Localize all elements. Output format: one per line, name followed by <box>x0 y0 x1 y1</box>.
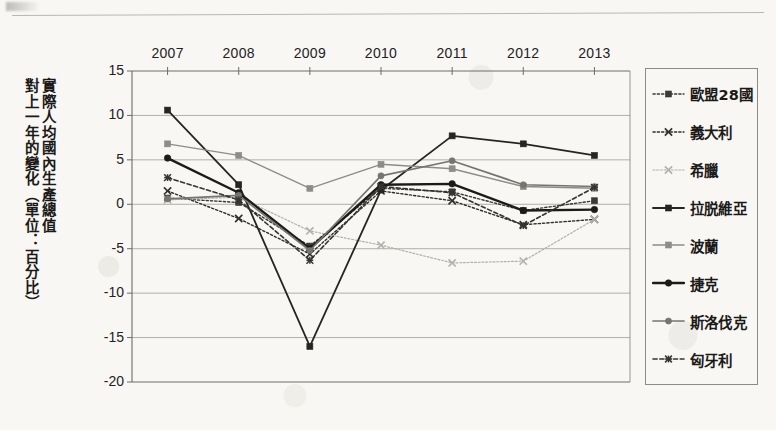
scanned-page: 實際人均國內生產總值 對上一年的變化（單位：百分比） 2007200820092… <box>0 0 776 430</box>
legend-item-1[interactable]: 義大利 <box>646 117 757 147</box>
data-point <box>449 181 456 188</box>
data-point <box>235 196 242 203</box>
y-axis-ticks <box>127 71 132 382</box>
series-6 <box>164 158 597 254</box>
data-point <box>378 183 385 190</box>
data-point <box>307 247 313 253</box>
legend-key-square-icon <box>652 87 685 101</box>
chart-legend: 歐盟28國義大利希臘拉脱維亞波蘭捷克斯洛伐克匈牙利 <box>645 68 758 385</box>
legend-item-3[interactable]: 拉脱維亞 <box>646 193 757 223</box>
series-3 <box>165 107 598 349</box>
data-point <box>306 257 313 264</box>
data-point <box>520 207 527 214</box>
data-point <box>164 155 171 162</box>
legend-item-6[interactable]: 斯洛伐克 <box>646 306 757 336</box>
data-point <box>591 152 597 158</box>
legend-label-3: 拉脱維亞 <box>690 197 747 218</box>
data-point <box>236 182 242 188</box>
legend-label-0: 歐盟28國 <box>690 83 753 104</box>
data-point <box>378 173 384 179</box>
legend-label-2: 希臘 <box>690 159 718 180</box>
gridlines <box>132 71 630 382</box>
data-point <box>520 141 526 147</box>
legend-key-circle-icon <box>652 314 685 328</box>
legend-label-4: 波蘭 <box>690 235 718 256</box>
legend-key-square-icon <box>652 201 685 215</box>
legend-label-5: 捷克 <box>690 273 718 294</box>
legend-item-5[interactable]: 捷克 <box>646 268 757 298</box>
data-point <box>165 107 171 113</box>
series-line <box>168 110 595 346</box>
legend-item-7[interactable]: 匈牙利 <box>646 344 757 374</box>
legend-key-cross-icon <box>652 125 685 139</box>
series-0 <box>165 185 598 249</box>
legend-key-cross-icon <box>652 163 685 177</box>
legend-item-0[interactable]: 歐盟28國 <box>646 79 757 109</box>
data-point <box>307 343 313 349</box>
data-point <box>665 280 672 287</box>
data-point <box>666 91 672 97</box>
data-point <box>449 189 456 196</box>
legend-key-square-icon <box>652 238 685 252</box>
data-point <box>520 222 527 229</box>
legend-item-2[interactable]: 希臘 <box>646 155 757 185</box>
legend-label-1: 義大利 <box>690 121 733 142</box>
data-point <box>236 152 242 158</box>
legend-key-star-icon <box>652 352 685 366</box>
data-point <box>591 198 597 204</box>
data-point <box>591 184 598 191</box>
legend-key-circle-icon <box>652 276 685 290</box>
data-point <box>666 242 672 248</box>
data-point <box>520 182 526 188</box>
series-5 <box>164 155 597 252</box>
legend-label-6: 斯洛伐克 <box>690 311 747 332</box>
data-point <box>164 187 171 194</box>
data-point <box>665 356 672 363</box>
data-point <box>164 174 171 181</box>
data-point <box>307 185 313 191</box>
data-point <box>449 133 455 139</box>
data-point <box>666 205 672 211</box>
data-point <box>449 166 455 172</box>
data-point <box>378 161 384 167</box>
data-point <box>449 158 455 164</box>
series-line <box>168 197 595 263</box>
data-point <box>235 215 242 222</box>
data-point <box>164 196 170 202</box>
legend-item-4[interactable]: 波蘭 <box>646 230 757 260</box>
series-line <box>168 158 595 249</box>
data-point <box>665 318 671 324</box>
legend-label-7: 匈牙利 <box>690 349 733 370</box>
data-point <box>165 141 171 147</box>
data-point <box>591 206 598 213</box>
